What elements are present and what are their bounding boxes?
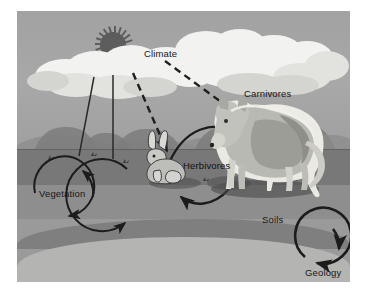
diagram-overlay [17, 11, 350, 282]
illustration-plate: Climate Carnivores Herbivores Vegetation… [17, 11, 350, 282]
label-vegetation: Vegetation [39, 188, 85, 199]
wolf-icon [207, 98, 325, 198]
label-climate: Climate [144, 48, 177, 59]
rainfall-lines [79, 75, 113, 159]
label-soils: Soils [262, 214, 283, 225]
label-herbivores: Herbivores [183, 160, 230, 171]
ecosystem-cycle-figure: Climate Carnivores Herbivores Vegetation… [0, 0, 367, 294]
label-carnivores: Carnivores [244, 88, 291, 99]
geology-cycle-arrow [295, 208, 350, 264]
vegetation-cycle-arrow [34, 156, 94, 216]
label-geology: Geology [305, 267, 341, 278]
